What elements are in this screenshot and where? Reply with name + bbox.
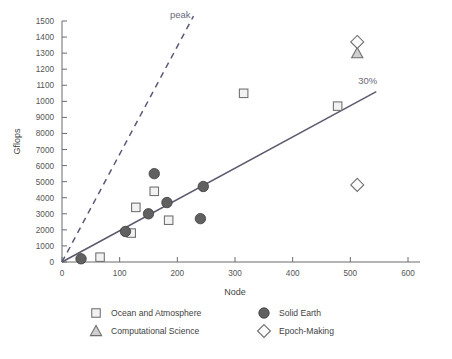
x-tick-label: 600 xyxy=(401,269,415,278)
legend-item-epoch-making[interactable]: Epoch-Making xyxy=(258,325,335,338)
marker-circle-1-6 xyxy=(198,181,208,191)
y-tick-label: 3000 xyxy=(36,210,55,219)
marker-circle-1-3 xyxy=(149,168,159,178)
legend-label-2: Computational Science xyxy=(111,326,200,336)
marker-circle-1-2 xyxy=(143,209,153,219)
annotation-peak: peak xyxy=(170,9,191,20)
marker-square-0-4 xyxy=(164,216,173,225)
x-tick-label: 300 xyxy=(228,269,242,278)
marker-square-0-3 xyxy=(150,187,159,196)
marker-diamond-3-1 xyxy=(351,178,364,191)
reference-line-peak xyxy=(62,16,193,262)
y-tick-label: 6000 xyxy=(36,162,55,171)
legend-item-solid-earth[interactable]: Solid Earth xyxy=(259,308,321,318)
marker-circle-1-0 xyxy=(76,254,86,264)
y-tick-label: 1000 xyxy=(36,242,55,251)
data-points xyxy=(76,35,364,264)
legend-label-1: Solid Earth xyxy=(279,308,321,318)
x-tick-label: 500 xyxy=(343,269,357,278)
legend-label-3: Epoch-Making xyxy=(279,326,334,336)
y-axis-title: Gflops xyxy=(12,128,22,155)
marker-circle-1-1 xyxy=(120,226,130,236)
legend-item-computational-science[interactable]: Computational Science xyxy=(90,325,199,336)
annotation-30pct: 30% xyxy=(358,75,378,86)
marker-square-0-0 xyxy=(96,253,105,262)
x-tick-label: 0 xyxy=(60,269,65,278)
marker-circle-legend-1 xyxy=(259,308,269,318)
y-tick-label: 5000 xyxy=(36,178,55,187)
y-tick-label: 8000 xyxy=(36,129,55,138)
series-ocean-and-atmosphere xyxy=(96,89,342,261)
y-tick-label: 1100 xyxy=(36,81,54,90)
y-tick-label: 1300 xyxy=(36,49,55,58)
y-tick-label: 1000 xyxy=(36,97,55,106)
marker-circle-1-5 xyxy=(195,213,205,223)
y-tick-label: 1500 xyxy=(36,17,55,26)
series-solid-earth xyxy=(76,168,209,264)
x-tick-label: 100 xyxy=(113,269,127,278)
scatter-chart: 0100020003000400050006000700080009000100… xyxy=(0,0,452,359)
marker-square-legend-0 xyxy=(92,309,101,318)
chart-legend: Ocean and AtmosphereSolid EarthComputati… xyxy=(90,308,334,338)
series-epoch-making xyxy=(351,35,364,191)
plot-canvas: 0100020003000400050006000700080009000100… xyxy=(0,0,452,359)
marker-diamond-legend-3 xyxy=(258,325,271,338)
marker-diamond-3-0 xyxy=(351,35,364,48)
y-tick-label: 0 xyxy=(49,258,54,267)
marker-square-0-2 xyxy=(132,203,141,212)
y-tick-label: 7000 xyxy=(36,146,55,155)
marker-square-0-5 xyxy=(239,89,248,98)
y-tick-label: 1400 xyxy=(36,33,55,42)
x-axis-title: Node xyxy=(224,287,246,297)
chart-annotations: peak30% xyxy=(170,9,378,86)
marker-circle-1-4 xyxy=(162,197,172,207)
legend-item-ocean-and-atmosphere[interactable]: Ocean and Atmosphere xyxy=(92,308,202,318)
y-tick-label: 2000 xyxy=(36,226,55,235)
marker-triangle-legend-2 xyxy=(90,325,101,335)
y-tick-label: 1200 xyxy=(36,65,55,74)
marker-square-0-6 xyxy=(333,102,342,111)
reference-lines xyxy=(62,16,376,262)
x-tick-label: 400 xyxy=(286,269,300,278)
reference-line-30pct xyxy=(62,92,376,262)
y-tick-label: 9000 xyxy=(36,113,55,122)
legend-label-0: Ocean and Atmosphere xyxy=(111,308,202,318)
x-tick-label: 200 xyxy=(170,269,184,278)
y-tick-label: 4000 xyxy=(36,194,55,203)
axis-lines xyxy=(62,21,420,262)
